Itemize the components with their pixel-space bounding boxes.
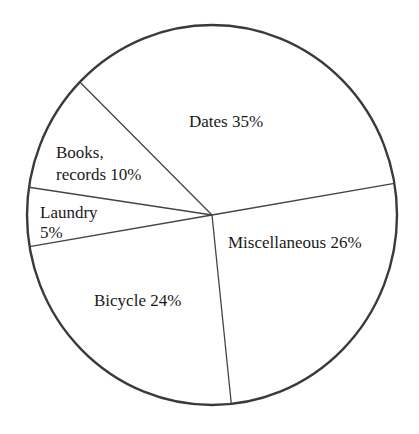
slice-label-laundry-line-2: 5% [40,223,63,242]
slice-label-books-line-2: records 10% [56,165,141,184]
pie-chart: Dates 35% Miscellaneous 26% Bicycle 24% … [0,0,419,434]
slice-label-bicycle: Bicycle 24% [94,291,181,310]
slice-label-laundry-line-1: Laundry [40,203,98,222]
slice-label-miscellaneous: Miscellaneous 26% [228,233,362,252]
pie-slice-miscellaneous [212,183,397,404]
pie-slice-bicycle [30,215,232,405]
slice-label-dates: Dates 35% [189,112,263,131]
slice-label-books-line-1: Books, [56,143,104,162]
